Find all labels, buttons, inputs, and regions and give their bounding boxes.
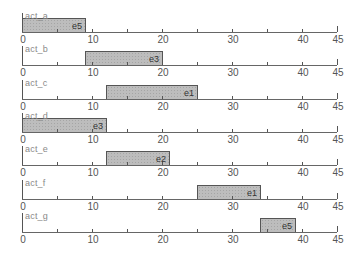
x-tick <box>92 229 93 232</box>
x-tick-label: 20 <box>157 201 168 212</box>
x-tick-label: 20 <box>157 101 168 112</box>
x-tick <box>162 96 163 99</box>
x-axis-line <box>22 32 337 33</box>
x-tick <box>127 96 128 99</box>
x-tick-label: 30 <box>227 234 238 245</box>
x-tick <box>22 62 23 65</box>
activity-label: act_g <box>25 211 48 221</box>
x-tick <box>92 129 93 132</box>
x-tick <box>92 196 93 199</box>
x-tick <box>197 129 198 132</box>
bar-label: e3 <box>149 54 159 64</box>
x-tick <box>337 226 338 232</box>
x-tick <box>232 96 233 99</box>
x-tick <box>57 62 58 65</box>
x-tick-label: 45 <box>332 167 343 178</box>
activity-label: act_e <box>25 144 48 154</box>
x-tick <box>232 196 233 199</box>
x-tick <box>197 29 198 32</box>
x-tick <box>267 62 268 65</box>
x-tick-label: 30 <box>227 201 238 212</box>
x-tick-label: 40 <box>297 101 308 112</box>
x-tick <box>22 96 23 99</box>
x-tick <box>232 62 233 65</box>
x-axis-line <box>22 199 337 200</box>
x-tick-label: 20 <box>157 34 168 45</box>
x-tick-label: 45 <box>332 34 343 45</box>
activity-bar: e1 <box>197 185 261 200</box>
x-tick <box>162 229 163 232</box>
x-tick-label: 45 <box>332 67 343 78</box>
x-tick <box>92 62 93 65</box>
x-tick <box>57 196 58 199</box>
x-tick <box>302 62 303 65</box>
activity-label: act_c <box>25 78 48 88</box>
x-tick <box>302 162 303 165</box>
x-tick <box>337 193 338 199</box>
x-tick-label: 30 <box>227 101 238 112</box>
bar-label: e5 <box>72 21 82 31</box>
x-tick-label: 40 <box>297 67 308 78</box>
x-tick <box>22 162 23 165</box>
x-tick <box>127 162 128 165</box>
x-tick <box>92 29 93 32</box>
x-tick <box>302 96 303 99</box>
x-tick <box>127 129 128 132</box>
x-tick-label: 20 <box>157 167 168 178</box>
x-tick-label: 40 <box>297 134 308 145</box>
activity-bar: e5 <box>260 218 296 233</box>
gantt-chart: act_ae501020304045act_be301020304045act_… <box>0 0 359 262</box>
x-tick-label: 10 <box>87 167 98 178</box>
bar-label: e2 <box>156 154 166 164</box>
x-tick <box>337 159 338 165</box>
x-tick <box>197 96 198 99</box>
x-tick <box>337 26 338 32</box>
x-tick <box>92 162 93 165</box>
x-tick-label: 20 <box>157 234 168 245</box>
x-tick <box>232 129 233 132</box>
x-tick <box>267 96 268 99</box>
x-tick-label: 20 <box>157 67 168 78</box>
x-tick-label: 45 <box>332 134 343 145</box>
bar-label: e1 <box>247 188 257 198</box>
x-tick <box>127 229 128 232</box>
x-tick <box>267 196 268 199</box>
activity-label: act_d <box>25 111 48 121</box>
x-tick <box>162 196 163 199</box>
x-tick <box>57 229 58 232</box>
x-tick <box>197 162 198 165</box>
x-tick <box>197 229 198 232</box>
x-axis-line <box>22 132 337 133</box>
x-tick <box>92 96 93 99</box>
x-tick-label: 0 <box>20 67 26 78</box>
x-axis-line <box>22 99 337 100</box>
x-tick <box>127 62 128 65</box>
x-tick <box>302 29 303 32</box>
x-tick-label: 10 <box>87 134 98 145</box>
x-tick <box>22 129 23 132</box>
x-tick <box>22 29 23 32</box>
x-tick <box>57 29 58 32</box>
x-tick <box>197 196 198 199</box>
x-tick-label: 30 <box>227 134 238 145</box>
x-tick-label: 45 <box>332 234 343 245</box>
x-tick <box>57 129 58 132</box>
x-tick <box>267 29 268 32</box>
x-tick-label: 10 <box>87 234 98 245</box>
x-tick-label: 40 <box>297 34 308 45</box>
x-tick <box>57 162 58 165</box>
x-tick <box>337 93 338 99</box>
x-tick <box>22 196 23 199</box>
x-tick <box>232 229 233 232</box>
x-tick <box>267 229 268 232</box>
activity-bar: e1 <box>106 85 198 100</box>
activity-bar: e3 <box>85 51 163 66</box>
x-tick <box>127 196 128 199</box>
x-tick-label: 20 <box>157 134 168 145</box>
x-tick <box>267 162 268 165</box>
x-tick <box>22 229 23 232</box>
x-tick <box>232 29 233 32</box>
bar-label: e1 <box>184 88 194 98</box>
x-tick-label: 45 <box>332 201 343 212</box>
x-tick-label: 40 <box>297 167 308 178</box>
